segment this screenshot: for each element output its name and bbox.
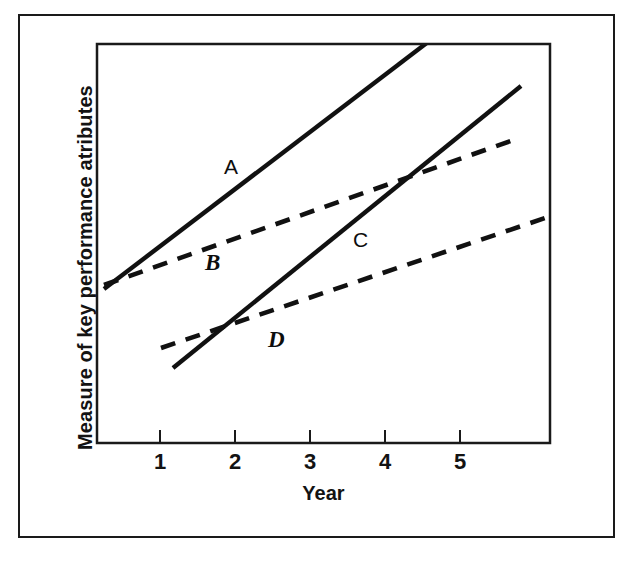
series-label-a: A [224,155,238,179]
series-label-c: C [353,228,368,252]
x-tick-label-3: 3 [290,449,330,475]
x-tick-label-1: 1 [140,449,180,475]
series-label-b: B [205,250,220,276]
x-tick-label-5: 5 [440,449,480,475]
x-axis-title: Year [97,482,550,505]
x-tick-label-4: 4 [365,449,405,475]
series-label-d: D [268,327,285,353]
chart-figure: Measure of key performance atributes [0,0,635,572]
x-tick-label-2: 2 [215,449,255,475]
